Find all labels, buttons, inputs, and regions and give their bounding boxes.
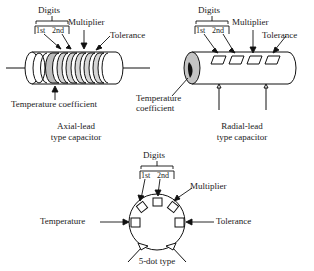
five-dot-drawing <box>128 194 186 262</box>
axial-left-rim <box>33 53 45 83</box>
axial-temp-coefficient-label: Temperature coefficient <box>11 99 97 109</box>
axial-band-group <box>46 53 105 83</box>
radial-caption-line1: Radial-lead <box>202 121 282 132</box>
axial-right-end <box>116 52 123 84</box>
axial-caption-line1: Axial-lead <box>38 121 114 132</box>
radial-lead-left-base <box>217 84 221 88</box>
axial-first-digit-label: 1st <box>36 26 45 35</box>
radial-second-digit-label: 2nd <box>212 26 224 35</box>
axial-arrowhead-temp <box>52 86 58 92</box>
five-dot-digits-label: Digits <box>143 150 165 160</box>
axial-caption-line2: type capacitor <box>38 132 114 143</box>
radial-tolerance-label: Tolerance <box>262 30 297 40</box>
five-dot-arrowhead-temperature <box>123 219 129 225</box>
axial-tolerance-label: Tolerance <box>110 30 145 40</box>
axial-arrowhead-multiplier <box>81 43 87 49</box>
axial-digits-brace <box>36 21 68 24</box>
radial-mark-multiplier <box>247 56 262 64</box>
radial-temp-coefficient-line2: coefficient <box>136 103 174 113</box>
axial-arrowhead-tolerance <box>96 45 102 50</box>
axial-arrowhead-2nd <box>66 45 71 49</box>
five-dot-arrowhead-tolerance <box>186 219 192 225</box>
axial-capacitor-drawing <box>6 52 150 84</box>
five-dot-multiplier-label: Multiplier <box>190 181 227 191</box>
axial-sep-b <box>102 53 108 83</box>
five-dot-caption: 5-dot type <box>122 256 192 267</box>
radial-multiplier-label: Multiplier <box>232 17 269 27</box>
radial-mark-1st-digit <box>211 56 226 64</box>
radial-digits-label: Digits <box>198 5 220 15</box>
radial-digits-brace <box>196 21 228 24</box>
radial-temp-coefficient-line1: Temperature <box>136 93 181 103</box>
five-dot-mark-temperature <box>131 218 140 227</box>
axial-digits-label: Digits <box>38 5 60 15</box>
radial-mark-tolerance <box>265 56 280 64</box>
axial-multiplier-label: Multiplier <box>68 17 105 27</box>
axial-second-digit-label: 2nd <box>52 26 64 35</box>
five-dot-tolerance-label: Tolerance <box>216 216 251 226</box>
five-dot-mark-tolerance <box>175 218 184 227</box>
radial-caption-line2: type capacitor <box>202 132 282 143</box>
radial-capacitor-drawing <box>184 52 296 110</box>
five-dot-second-digit-label: 2nd <box>157 171 169 180</box>
radial-mark-group <box>211 56 280 64</box>
radial-right-end <box>288 52 296 84</box>
radial-lead-right-base <box>264 84 268 88</box>
radial-first-digit-label: 1st <box>196 26 205 35</box>
five-dot-first-digit-label: 1st <box>141 171 150 180</box>
five-dot-arrowhead-multiplier <box>174 195 180 201</box>
five-dot-digits-brace <box>141 166 173 169</box>
capacitor-marking-figure: Digits 1st 2nd Multiplier Tolerance Temp… <box>0 0 314 271</box>
radial-mark-2nd-digit <box>229 56 244 64</box>
five-dot-temperature-label: Temperature <box>40 216 85 226</box>
five-dot-mark-2nd-digit <box>153 198 162 206</box>
